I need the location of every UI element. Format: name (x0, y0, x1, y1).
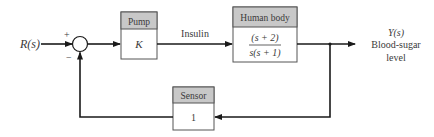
pump-block: Pump K (121, 12, 157, 59)
transfer-denominator: s(s + 1) (249, 47, 281, 59)
sensor-block: Sensor 1 (173, 87, 214, 130)
transfer-numerator: (s + 2) (251, 32, 279, 44)
sensor-title: Sensor (181, 91, 208, 101)
minus-sign: − (66, 52, 72, 63)
pump-title: Pump (128, 17, 150, 27)
sensor-gain: 1 (191, 112, 196, 123)
output-desc-line2: level (386, 52, 406, 63)
pump-gain: K (134, 38, 143, 50)
plus-sign: + (64, 29, 70, 40)
output-label: Y(s) (388, 27, 405, 39)
insulin-label: Insulin (181, 28, 209, 39)
human-body-block: Human body (s + 2) s(s + 1) (233, 7, 297, 62)
human-body-title: Human body (240, 13, 290, 23)
block-diagram: R(s) + − Pump K Insulin Human body (s + … (0, 0, 434, 137)
summing-junction (73, 37, 88, 52)
output-desc-line1: Blood-sugar (371, 39, 421, 50)
feedback-line-out (80, 53, 173, 118)
input-label: R(s) (19, 37, 40, 51)
